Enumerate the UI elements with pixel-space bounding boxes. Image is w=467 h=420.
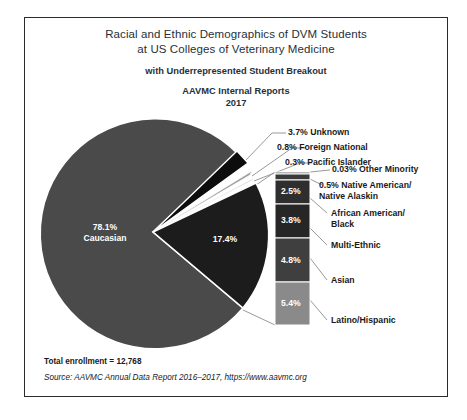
callout-foreign-national-pct: 0.8%	[277, 142, 297, 152]
bar-segment-native-american[interactable]	[275, 174, 310, 180]
bar-label-african-american: 2.5%	[281, 186, 301, 196]
callout-asian-name: Asian	[331, 275, 355, 285]
bar-label-multi-ethnic: 3.8%	[281, 215, 301, 225]
leader-line-latino-hispanic	[310, 300, 327, 320]
pie-label-caucasian-name: Caucasian	[84, 233, 127, 243]
callout-multi-ethnic: Multi-Ethnic	[331, 240, 381, 251]
callout-unknown-name: Unknown	[310, 127, 349, 137]
callout-asian: Asian	[331, 275, 355, 286]
callout-foreign-national-name: Foreign National	[299, 142, 368, 152]
callout-latino-hispanic: Latino/Hispanic	[331, 315, 396, 326]
callout-unknown: 3.7% Unknown	[288, 127, 349, 138]
callout-native-american-pct: 0.5%	[319, 180, 339, 190]
callout-native-american: 0.5% Native American/Native Alaskin	[319, 180, 447, 203]
leader-line-bar-top	[256, 172, 275, 185]
callout-multi-ethnic-name: Multi-Ethnic	[331, 240, 381, 250]
leader-line-other-minority	[310, 170, 330, 172]
leader-line-asian	[310, 258, 327, 280]
bar-label-latino-hispanic: 5.4%	[281, 298, 301, 308]
leader-line-multi-ethnic	[310, 228, 327, 245]
footer-source: Source: AAVMC Annual Data Report 2016–20…	[44, 373, 307, 382]
callout-other-minority-pct: 0.03%	[332, 164, 357, 174]
callout-african-american: African American/Black	[331, 208, 447, 231]
callout-pacific-islander-pct: 0.3%	[285, 157, 305, 167]
pie-label-caucasian-pct: 78.1%	[93, 222, 117, 232]
chart-figure: Racial and Ethnic Demographics of DVM St…	[0, 0, 467, 420]
pie-label-caucasian: 78.1% Caucasian	[62, 222, 148, 243]
pie-label-underrepresented: 17.4%	[195, 234, 255, 245]
callout-other-minority: 0.03% Other Minority	[332, 164, 418, 175]
leader-line-bar-bottom	[243, 310, 275, 325]
footer-total-enrollment: Total enrollment = 12,768	[44, 357, 141, 366]
callout-latino-hispanic-name: Latino/Hispanic	[331, 315, 396, 325]
callout-foreign-national: 0.8% Foreign National	[277, 142, 368, 153]
bar-label-asian: 4.8%	[281, 255, 301, 265]
callout-other-minority-name: Other Minority	[359, 164, 418, 174]
callout-unknown-pct: 3.7%	[288, 127, 308, 137]
callout-african-american-name: African American/Black	[331, 208, 405, 229]
